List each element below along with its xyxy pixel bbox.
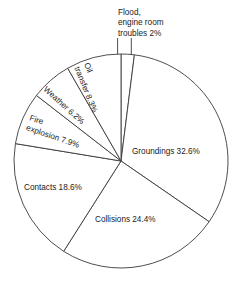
pie-chart-figure: Groundings 32.6%Collisions 24.4%Contacts… — [0, 0, 240, 291]
label-collisions-line-0: Collisions 24.4% — [95, 215, 156, 224]
label-contacts-line-0: Contacts 18.6% — [24, 183, 82, 192]
label-collisions: Collisions 24.4% — [95, 215, 156, 224]
label-groundings: Groundings 32.6% — [132, 147, 200, 156]
pie-chart-svg: Groundings 32.6%Collisions 24.4%Contacts… — [0, 0, 240, 291]
callout-leader-lines — [118, 38, 132, 55]
label-flood-engine-room-troubles: Flood, engine room troubles 2% — [118, 8, 164, 39]
label-groundings-line-0: Groundings 32.6% — [132, 147, 200, 156]
label-contacts: Contacts 18.6% — [24, 183, 82, 192]
